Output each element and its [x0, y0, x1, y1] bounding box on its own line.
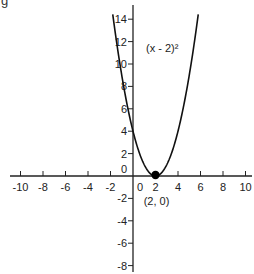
x-tick-label: 6: [197, 181, 203, 193]
y-tick-label: 14: [115, 13, 127, 25]
x-tick-label: -6: [61, 181, 71, 193]
vertex-label: (2, 0): [144, 195, 170, 207]
y-tick-label: -6: [117, 237, 127, 249]
x-tick-label: 4: [175, 181, 181, 193]
y-tick-label: -4: [117, 215, 127, 227]
y-tick-label: 6: [121, 103, 127, 115]
x-tick-label: 10: [239, 181, 251, 193]
y-tick-label: -2: [117, 192, 127, 204]
x-tick-label: -8: [38, 181, 48, 193]
x-tick-label: 8: [220, 181, 226, 193]
function-label: (x - 2)²: [146, 42, 179, 54]
y-tick-label: 4: [121, 125, 127, 137]
x-tick-label: -2: [106, 181, 116, 193]
axes: [10, 5, 252, 272]
y-tick-label: 0: [121, 163, 127, 175]
x-tick-label: -4: [83, 181, 93, 193]
y-tick-label: -8: [117, 260, 127, 272]
x-tick-label: 2: [152, 181, 158, 193]
axis-ticks: -10-8-6-4-2024681014121086420-2-4-6-8: [13, 13, 252, 271]
vertex-point: [151, 171, 159, 179]
y-tick-label: 2: [121, 148, 127, 160]
x-tick-label: 0: [137, 181, 143, 193]
parabola-chart: -10-8-6-4-2024681014121086420-2-4-6-8 (x…: [0, 0, 254, 274]
annotations: (x - 2)²(2, 0): [144, 42, 179, 207]
x-tick-label: -10: [13, 181, 29, 193]
